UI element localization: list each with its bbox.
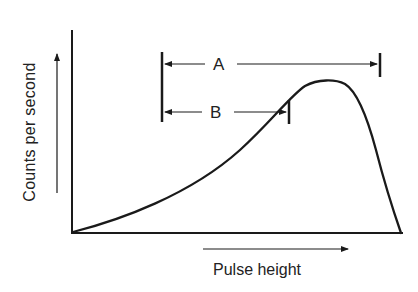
- distribution-curve: [73, 80, 401, 233]
- x-axis-label: Pulse height: [213, 262, 301, 278]
- pulse-height-diagram: [0, 0, 418, 292]
- annotation-a-label: A: [213, 56, 224, 73]
- y-axis-label: Counts per second: [22, 62, 38, 201]
- annotation-b-label: B: [210, 104, 221, 121]
